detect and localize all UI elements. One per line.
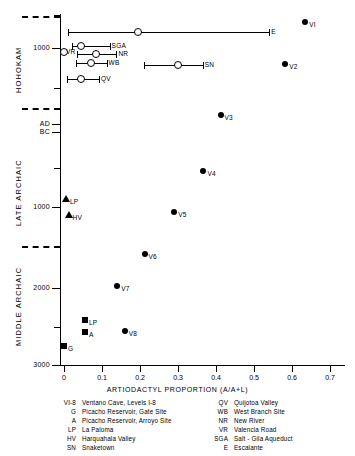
data-point-label: LP: [70, 198, 78, 205]
y-axis-tick: [52, 132, 61, 133]
era-separator: [22, 16, 60, 18]
data-point-open-circle[interactable]: [77, 75, 85, 83]
y-axis-tick-label: AD: [16, 120, 50, 127]
data-point-label: LP: [89, 319, 97, 326]
error-bar-line: [68, 32, 269, 33]
x-axis-tick-label: 0.5: [242, 374, 266, 381]
data-point-open-circle[interactable]: [87, 59, 95, 67]
error-bar-cap: [76, 60, 77, 67]
era-name-label: HOHOKAM: [14, 47, 23, 93]
legend-item-key: SN: [46, 443, 82, 452]
legend-item-key: VR: [198, 425, 234, 434]
data-point-filled-circle[interactable]: [302, 19, 308, 25]
data-point-label: V2: [289, 63, 297, 70]
data-point-label: E: [271, 28, 276, 35]
legend-item-text: Quijotoa Valley: [234, 398, 348, 407]
legend-item-key: QV: [198, 398, 234, 407]
legend-item-text: Picacho Reservoir, Arroyo Site: [82, 416, 206, 425]
era-separator: [22, 246, 60, 248]
error-bar-cap: [203, 62, 204, 69]
legend-item-text: Harquahala Valley: [82, 434, 206, 443]
data-point-filled-circle[interactable]: [171, 209, 177, 215]
error-bar-cap: [269, 29, 270, 36]
y-axis-minor-tick: [54, 168, 61, 169]
error-bar-cap: [107, 60, 108, 67]
data-point-open-circle[interactable]: [134, 28, 142, 36]
data-point-filled-triangle[interactable]: [65, 211, 73, 218]
data-point-label: A: [89, 331, 94, 338]
y-axis-tick: [52, 288, 61, 289]
data-point-filled-circle[interactable]: [122, 328, 128, 334]
legend-item: VI-8Ventano Cave, Levels I-8: [46, 398, 206, 407]
legend-item-key: LP: [46, 425, 82, 434]
data-point-filled-circle[interactable]: [282, 61, 288, 67]
data-point-open-circle[interactable]: [174, 61, 182, 69]
data-point-label: V3: [225, 114, 233, 121]
data-point-label: SGA: [112, 42, 126, 49]
legend-item-key: HV: [46, 434, 82, 443]
era-separator: [22, 108, 60, 110]
error-bar-cap: [110, 43, 111, 50]
x-axis-tick: [64, 366, 65, 372]
data-point-filled-triangle[interactable]: [62, 195, 70, 202]
data-point-label: V6: [149, 253, 157, 260]
x-axis-tick-label: 0.4: [204, 374, 228, 381]
legend-item-text: Picacho Reservoir, Gate Site: [82, 407, 206, 416]
data-point-open-circle[interactable]: [60, 48, 68, 56]
data-point-label: SN: [205, 61, 214, 68]
x-axis-tick-label: 0.1: [90, 374, 114, 381]
x-axis-label: ARTIODACTYL PROPORTION (A/A+L): [0, 386, 355, 393]
legend-item-text: Ventano Cave, Levels I-8: [82, 398, 206, 407]
x-axis-tick: [140, 366, 141, 372]
error-bar-cap: [67, 76, 68, 83]
y-axis-tick: [52, 124, 61, 125]
legend-item: LPLa Paloma: [46, 425, 206, 434]
data-point-filled-square[interactable]: [82, 317, 88, 323]
y-axis-minor-tick: [54, 327, 61, 328]
data-point-filled-circle[interactable]: [114, 283, 120, 289]
legend-item: HVHarquahala Valley: [46, 434, 206, 443]
data-point-label: NR: [118, 50, 128, 57]
legend-item-text: La Paloma: [82, 425, 206, 434]
data-point-label: HV: [73, 214, 82, 221]
era-name-label: MIDDLE ARCHAIC: [14, 267, 23, 346]
legend-item-text: West Branch Site: [234, 407, 348, 416]
x-axis-tick: [216, 366, 217, 372]
y-axis-tick: [52, 207, 61, 208]
data-point-filled-square[interactable]: [82, 329, 88, 335]
data-point-open-circle[interactable]: [77, 42, 85, 50]
data-point-label: G: [68, 345, 73, 352]
x-axis-tick: [102, 366, 103, 372]
data-point-label: V8: [129, 330, 137, 337]
x-axis-tick-label: 0.6: [280, 374, 304, 381]
data-point-filled-circle[interactable]: [218, 112, 224, 118]
data-point-filled-circle[interactable]: [200, 168, 206, 174]
data-point-label: QV: [101, 75, 111, 82]
legend-item-text: Snaketown: [82, 443, 206, 452]
y-axis-tick: [52, 365, 61, 366]
x-axis-tick-label: 0.2: [128, 374, 152, 381]
legend-item: SNSnaketown: [46, 443, 206, 452]
legend-item-key: VI-8: [46, 398, 82, 407]
chart-figure: 1000ADBC100020003000 HOHOKAMLATE ARCHAIC…: [0, 0, 355, 456]
era-name-label: LATE ARCHAIC: [14, 159, 23, 226]
data-point-filled-circle[interactable]: [142, 251, 148, 257]
data-point-label: V4: [207, 170, 215, 177]
legend-item-text: Salt - Gila Aqueduct: [234, 434, 348, 443]
legend-item-text: Escalante: [234, 443, 348, 452]
legend-item: GPicacho Reservoir, Gate Site: [46, 407, 206, 416]
x-axis-tick-label: 0.3: [166, 374, 190, 381]
data-point-open-circle[interactable]: [92, 50, 100, 58]
x-axis-tick: [292, 366, 293, 372]
x-axis-tick-label: 0.7: [318, 374, 342, 381]
data-point-label: WB: [109, 59, 120, 66]
error-bar-cap: [99, 76, 100, 83]
x-axis-tick: [330, 366, 331, 372]
x-axis-tick-label: 0: [52, 374, 76, 381]
legend-item: SGASalt - Gila Aqueduct: [198, 434, 348, 443]
y-axis-minor-tick: [54, 88, 61, 89]
legend-item-key: SGA: [198, 434, 234, 443]
data-point-filled-square[interactable]: [61, 343, 67, 349]
legend-item: EEscalante: [198, 443, 348, 452]
legend-item-key: WB: [198, 407, 234, 416]
